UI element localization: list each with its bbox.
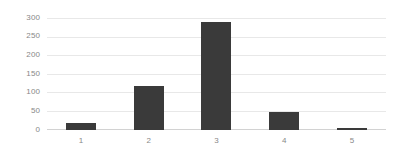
plot-area <box>47 18 386 130</box>
bar <box>66 123 96 130</box>
y-axis-tick-label: 150 <box>0 70 40 78</box>
y-axis-tick-label: 250 <box>0 32 40 40</box>
bar-slot <box>183 18 251 130</box>
bar-slot <box>250 18 318 130</box>
x-axis-tick-label: 4 <box>282 136 286 145</box>
x-axis-tick-label: 2 <box>146 136 150 145</box>
bar <box>134 86 164 130</box>
y-axis-tick-label: 300 <box>0 14 40 22</box>
y-axis-tick-labels: 300 250 200 150 100 50 0 <box>0 0 40 164</box>
x-axis-tick-label: 5 <box>350 136 354 145</box>
bar <box>269 112 299 130</box>
bar <box>337 128 367 130</box>
y-axis-tick-label: 0 <box>0 126 40 134</box>
y-axis-tick-label: 50 <box>0 107 40 115</box>
bar-slot <box>115 18 183 130</box>
y-axis-tick-label: 200 <box>0 51 40 59</box>
bar-slot <box>318 18 386 130</box>
bar-series <box>47 18 386 130</box>
x-axis-tick-labels: 1 2 3 4 5 <box>47 136 386 152</box>
bar <box>201 22 231 130</box>
bar-slot <box>47 18 115 130</box>
bar-chart: 300 250 200 150 100 50 0 <box>0 0 402 164</box>
x-axis-tick-label: 1 <box>79 136 83 145</box>
x-axis-tick-label: 3 <box>214 136 218 145</box>
y-axis-tick-label: 100 <box>0 88 40 96</box>
